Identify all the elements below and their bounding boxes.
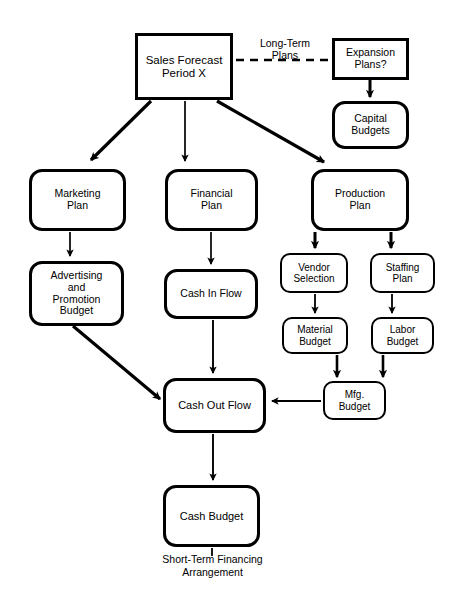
node-capital-budgets[interactable]: Capital Budgets [332, 101, 409, 149]
node-staffing-plan[interactable]: Staffing Plan [370, 253, 435, 293]
caption-short-term-financing-arrangement: Short-Term Financing Arrangement [130, 553, 295, 578]
node-vendor-selection[interactable]: Vendor Selection [280, 253, 348, 293]
node-cash-out-flow[interactable]: Cash Out Flow [163, 378, 266, 433]
node-marketing-plan[interactable]: Marketing Plan [29, 169, 126, 231]
node-labor-budget[interactable]: Labor Budget [371, 317, 434, 354]
node-cash-in-flow[interactable]: Cash In Flow [164, 269, 258, 319]
node-sales-forecast[interactable]: Sales Forecast Period X [135, 33, 233, 100]
node-financial-plan[interactable]: Financial Plan [165, 169, 258, 231]
node-production-plan[interactable]: Production Plan [311, 169, 409, 231]
node-mfg-budget[interactable]: Mfg. Budget [323, 381, 386, 420]
node-advertising-and-promotion-budget[interactable]: Advertising and Promotion Budget [29, 261, 124, 326]
node-material-budget[interactable]: Material Budget [282, 317, 348, 354]
node-cash-budget[interactable]: Cash Budget [163, 485, 260, 547]
connector-sales-to-production [217, 101, 324, 162]
flowchart-canvas: Sales Forecast Period X Expansion Plans?… [0, 0, 456, 604]
node-expansion-plans[interactable]: Expansion Plans? [332, 38, 409, 80]
edge-label-long-term-plans: Long-Term Plans [243, 38, 327, 62]
connector-sales-to-marketing [91, 101, 151, 160]
connector-advertising-to-cashout [73, 326, 160, 399]
